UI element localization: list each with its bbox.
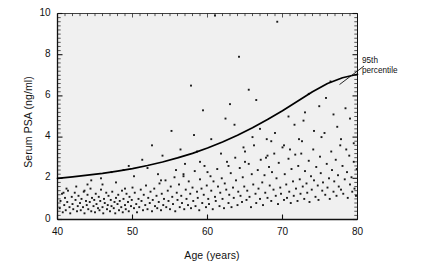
scatter-point xyxy=(66,188,68,190)
scatter-point xyxy=(269,185,271,187)
scatter-point xyxy=(345,149,347,151)
scatter-point xyxy=(172,203,174,205)
scatter-point xyxy=(208,203,210,205)
scatter-point xyxy=(87,184,89,186)
scatter-point xyxy=(262,204,264,206)
scatter-point xyxy=(293,195,295,197)
scatter-point xyxy=(333,191,335,193)
scatter-point xyxy=(69,206,71,208)
scatter-point xyxy=(120,206,122,208)
scatter-point xyxy=(276,177,278,179)
scatter-point xyxy=(152,199,154,201)
scatter-point xyxy=(219,192,221,194)
scatter-point xyxy=(276,21,278,23)
scatter-point xyxy=(244,151,246,153)
scatter-point xyxy=(268,166,270,168)
scatter-point xyxy=(255,202,257,204)
scatter-point xyxy=(311,189,313,191)
scatter-point xyxy=(102,184,104,186)
scatter-point xyxy=(188,180,190,182)
scatter-point xyxy=(315,196,317,198)
scatter-point xyxy=(349,184,351,186)
scatter-point xyxy=(199,178,201,180)
scatter-point xyxy=(76,210,78,212)
scatter-point xyxy=(127,201,129,203)
scatter-point xyxy=(136,211,138,213)
scatter-point xyxy=(94,211,96,213)
scatter-point xyxy=(282,146,284,148)
scatter-point xyxy=(171,130,173,132)
scatter-point xyxy=(267,197,269,199)
scatter-point xyxy=(128,210,130,212)
scatter-point xyxy=(353,161,355,163)
scatter-point xyxy=(134,192,136,194)
scatter-point xyxy=(204,165,206,167)
scatter-point xyxy=(229,103,231,105)
scatter-point xyxy=(175,169,177,171)
scatter-point xyxy=(187,204,189,206)
scatter-point xyxy=(308,160,310,162)
scatter-point xyxy=(339,144,341,146)
scatter-point xyxy=(273,189,275,191)
scatter-point xyxy=(115,197,117,199)
scatter-point xyxy=(63,204,65,206)
scatter-point xyxy=(346,171,348,173)
scatter-point xyxy=(108,195,110,197)
scatter-point xyxy=(338,186,340,188)
scatter-point xyxy=(192,200,194,202)
scatter-point xyxy=(93,199,95,201)
scatter-point xyxy=(297,200,299,202)
scatter-point xyxy=(347,197,349,199)
scatter-point xyxy=(107,204,109,206)
scatter-point xyxy=(304,170,306,172)
scatter-point xyxy=(184,163,186,165)
scatter-point xyxy=(98,196,100,198)
scatter-point xyxy=(135,203,137,205)
scatter-point xyxy=(331,169,333,171)
scatter-point xyxy=(298,138,300,140)
scatter-point xyxy=(99,200,101,202)
scatter-point xyxy=(125,208,127,210)
x-tick-label: 60 xyxy=(195,226,221,237)
scatter-point xyxy=(317,185,319,187)
scatter-point xyxy=(202,109,204,111)
scatter-point xyxy=(121,190,123,192)
scatter-point xyxy=(156,207,158,209)
scatter-point xyxy=(319,156,321,158)
scatter-point xyxy=(87,208,89,210)
scatter-point xyxy=(288,158,290,160)
scatter-point xyxy=(283,199,285,201)
scatter-point xyxy=(252,184,254,186)
scatter-point xyxy=(86,204,88,206)
scatter-point xyxy=(144,204,146,206)
annotation-line-1: 95th xyxy=(362,56,418,66)
scatter-point xyxy=(255,99,257,101)
scatter-point xyxy=(234,157,236,159)
scatter-point xyxy=(133,175,135,177)
scatter-point xyxy=(189,193,191,195)
scatter-point xyxy=(278,162,280,164)
scatter-point xyxy=(181,202,183,204)
scatter-point xyxy=(230,172,232,174)
scatter-point xyxy=(151,210,153,212)
scatter-point xyxy=(342,193,344,195)
scatter-point xyxy=(215,200,217,202)
scatter-point xyxy=(174,210,176,212)
x-tick-label: 50 xyxy=(120,226,146,237)
scatter-point xyxy=(132,187,134,189)
scatter-point xyxy=(87,194,89,196)
scatter-point xyxy=(300,193,302,195)
scatter-point xyxy=(237,204,239,206)
scatter-point xyxy=(150,191,152,193)
scatter-point xyxy=(141,159,143,161)
scatter-point xyxy=(345,107,347,109)
scatter-point xyxy=(180,195,182,197)
y-tick-label: 10 xyxy=(29,7,51,18)
x-tick-label: 80 xyxy=(345,226,371,237)
scatter-point xyxy=(259,128,261,130)
scatter-point xyxy=(219,205,221,207)
scatter-point xyxy=(147,167,149,169)
scatter-point xyxy=(102,206,104,208)
scatter-point xyxy=(315,166,317,168)
scatter-point xyxy=(131,199,133,201)
